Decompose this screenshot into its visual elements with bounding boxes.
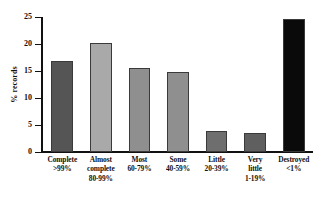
bar-chart-figure: % records 0510152025 Complete>99%Almostc… xyxy=(0,0,318,200)
x-axis-label-line: <1% xyxy=(274,164,313,173)
x-axis-label-line: 80-99% xyxy=(82,174,121,183)
y-axis-tick xyxy=(35,71,41,72)
bar xyxy=(206,131,228,152)
x-axis-category-label: Some40-59% xyxy=(159,155,198,174)
bar xyxy=(283,19,305,152)
x-axis-label-line: 1-19% xyxy=(236,174,275,183)
y-axis-tick xyxy=(35,44,41,45)
x-axis-category-label: Destroyed<1% xyxy=(274,155,313,174)
x-axis-label-line: >99% xyxy=(43,164,82,173)
y-axis-tick xyxy=(35,17,41,18)
y-axis-tick-label: 20 xyxy=(10,40,32,48)
x-axis-label-line: 60-79% xyxy=(120,164,159,173)
x-axis-label-line: Little xyxy=(197,155,236,164)
y-axis-tick xyxy=(35,125,41,126)
x-axis-category-label: Little20-39% xyxy=(197,155,236,174)
y-axis-tick-label: 15 xyxy=(10,67,32,75)
x-axis-category-label: Almostcomplete80-99% xyxy=(82,155,121,183)
x-axis-label-line: Complete xyxy=(43,155,82,164)
bar xyxy=(167,72,189,152)
x-axis-label-line: Destroyed xyxy=(274,155,313,164)
bar xyxy=(51,61,73,152)
x-axis-category-labels: Complete>99%Almostcomplete80-99%Most60-7… xyxy=(43,155,313,200)
y-axis-title: % records xyxy=(10,50,19,120)
y-axis-tick xyxy=(35,152,41,153)
x-axis-category-label: Most60-79% xyxy=(120,155,159,174)
x-axis-label-line: Some xyxy=(159,155,198,164)
y-axis-tick-label: 5 xyxy=(10,121,32,129)
x-axis-label-line: 20-39% xyxy=(197,164,236,173)
x-axis-category-label: Complete>99% xyxy=(43,155,82,174)
x-axis-label-line: Very xyxy=(236,155,275,164)
x-axis-label-line: 40-59% xyxy=(159,164,198,173)
x-axis-label-line: Most xyxy=(120,155,159,164)
y-axis-tick-label: 25 xyxy=(10,13,32,21)
x-axis-category-label: Verylittle1-19% xyxy=(236,155,275,183)
x-axis-label-line: little xyxy=(236,164,275,173)
y-axis-tick-label: 0 xyxy=(10,148,32,156)
y-axis-tick-label: 10 xyxy=(10,94,32,102)
bar xyxy=(244,133,266,152)
x-axis-label-line: Almost xyxy=(82,155,121,164)
bar xyxy=(129,68,151,152)
y-axis-tick xyxy=(35,98,41,99)
bar-series xyxy=(43,17,313,152)
bar xyxy=(90,43,112,152)
x-axis-label-line: complete xyxy=(82,164,121,173)
